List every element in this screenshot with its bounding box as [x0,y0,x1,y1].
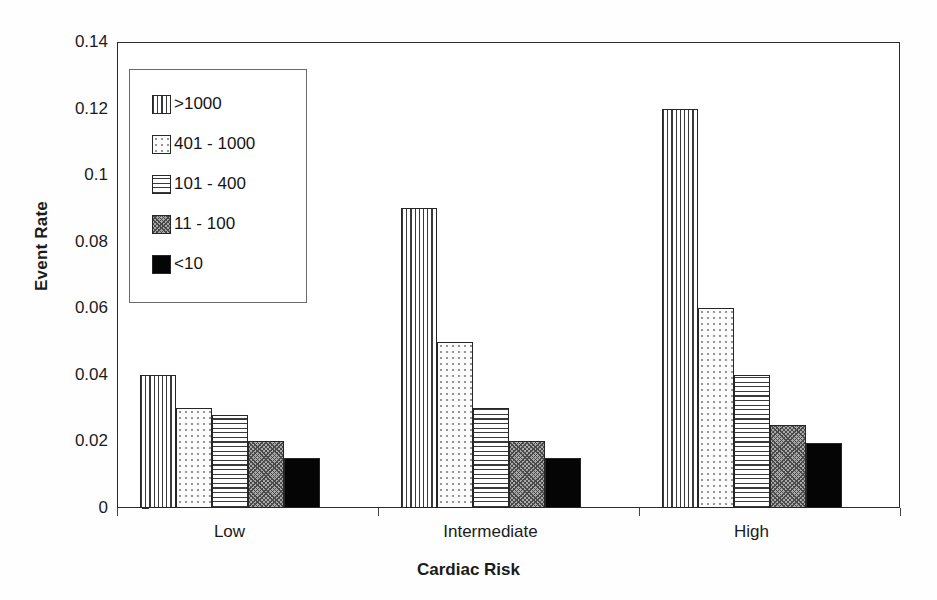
x-tick-mark [117,508,118,516]
y-tick-label: 0.02 [32,431,108,451]
bar-group [662,42,842,508]
bar [770,425,806,508]
bar [437,342,473,508]
legend-swatch-icon [152,175,171,194]
chart-figure: Event Rate 0.140.120.10.080.060.040.020 … [0,0,937,600]
legend-label: 101 - 400 [174,174,246,194]
legend-swatch-icon [152,135,171,154]
bar [401,208,437,508]
bar [212,415,248,508]
legend-swatch-icon [152,255,171,274]
y-tick-label: 0.12 [32,99,108,119]
y-tick-label: 0 [32,498,108,518]
bar [509,441,545,508]
bar [248,441,284,508]
bar [473,408,509,508]
bar [698,308,734,508]
chart-legend: >1000401 - 1000101 - 40011 - 100<10 [129,69,307,303]
bar [662,109,698,508]
x-axis-ticks: LowIntermediateHigh [117,508,900,520]
legend-item: 101 - 400 [152,164,306,204]
y-axis-ticks: 0.140.120.10.080.060.040.020 [32,0,108,600]
bar [545,458,581,508]
legend-swatch-icon [152,95,171,114]
y-tick-label: 0.14 [32,32,108,52]
legend-item: 11 - 100 [152,204,306,244]
legend-swatch-icon [152,215,171,234]
legend-label: >1000 [174,94,222,114]
bar [734,375,770,508]
bar [284,458,320,508]
bar [140,375,176,508]
x-tick-label: High [652,522,852,542]
y-tick-label: 0.06 [32,298,108,318]
legend-label: <10 [174,254,203,274]
legend-item: 401 - 1000 [152,124,306,164]
x-tick-mark [639,508,640,516]
bar [176,408,212,508]
bar-group [401,42,581,508]
y-tick-label: 0.1 [32,165,108,185]
y-tick-label: 0.04 [32,365,108,385]
legend-label: 401 - 1000 [174,134,255,154]
x-tick-mark [900,508,901,516]
legend-item: <10 [152,244,306,284]
x-tick-mark [378,508,379,516]
legend-item: >1000 [152,84,306,124]
y-tick-label: 0.08 [32,232,108,252]
legend-label: 11 - 100 [174,214,235,234]
bar [806,443,842,508]
x-axis-title: Cardiac Risk [0,560,937,580]
x-tick-label: Low [130,522,330,542]
x-tick-label: Intermediate [391,522,591,542]
